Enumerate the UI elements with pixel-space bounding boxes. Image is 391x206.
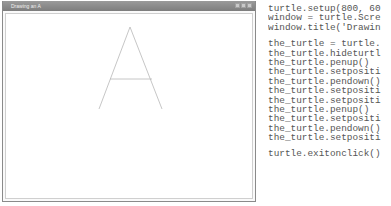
a-right-stroke [130, 27, 162, 109]
code-line: turtle.exitonclick() [268, 149, 391, 158]
letter-a-drawing [2, 1, 256, 202]
turtle-drawing-window: Drawing an A [2, 1, 256, 202]
code-line: window.title('Drawin [268, 23, 391, 32]
code-listing: turtle.setup(800, 60window = turtle.Scre… [268, 4, 391, 159]
code-line: the_turtle.setpositi [268, 133, 391, 142]
turtle-canvas[interactable] [5, 13, 253, 199]
a-left-stroke [99, 27, 130, 109]
